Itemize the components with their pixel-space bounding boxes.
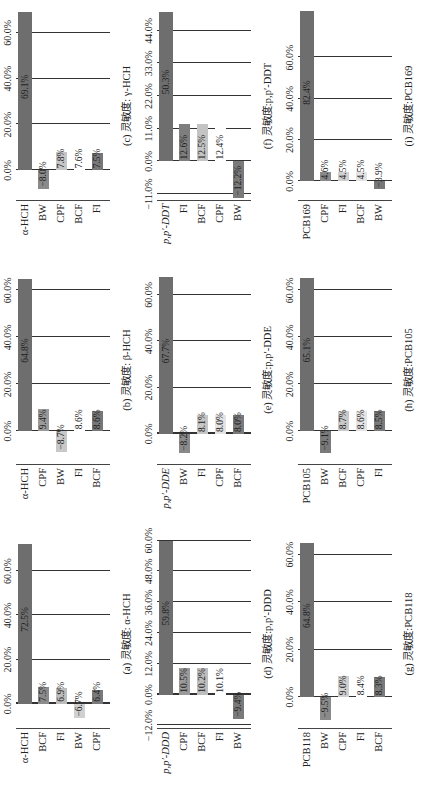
value-label: 72.5%: [20, 607, 31, 632]
tick-label: 20.0%: [143, 375, 154, 401]
tick-label: 60.0%: [284, 45, 295, 71]
value-label: 10.1%: [215, 668, 226, 693]
tick-label: 20.0%: [284, 371, 295, 397]
value-label: −9.5%: [320, 693, 331, 718]
category-label: BW: [55, 468, 66, 524]
category-label: CPF: [355, 468, 366, 524]
category-label: α-HCH: [19, 204, 30, 260]
tick-label: 40.0%: [143, 328, 154, 354]
value-label: 7.6%: [74, 148, 85, 168]
category-label: CPF: [214, 468, 225, 524]
panel-caption: (d) 灵敏度:p,p′-DDD: [259, 539, 274, 729]
value-label: 69.1%: [20, 75, 31, 100]
value-label: −9.1%: [320, 425, 331, 450]
chart-panel-e: 0.0%20.0%40.0%60.0%p,p′-DDE67.7%BW−8.2%F…: [141, 263, 282, 527]
value-label: 8.6%: [74, 409, 85, 429]
value-label: −6.7%: [74, 691, 85, 716]
tick-label: 20.0%: [2, 112, 13, 138]
category-label: PCB105: [301, 468, 312, 524]
value-label: 50.3%: [161, 70, 172, 95]
value-label: 9.0%: [338, 675, 349, 695]
panel-caption: (a) 灵敏度: α-HCH: [118, 539, 133, 729]
value-label: 12.4%: [215, 135, 226, 160]
category-label: CPF: [214, 204, 225, 260]
category-label: BW: [319, 468, 330, 524]
category-label: BCF: [37, 732, 48, 788]
chart-panel-g: 0.0%20.0%40.0%60.0%PCB11864.8%BW−9.5%CPF…: [282, 527, 423, 791]
tick-label: 44.0%: [143, 18, 154, 44]
plot-area: 0.0%20.0%40.0%60.0%α-HCH69.1%BW−8.0%CPF7…: [16, 10, 110, 201]
category-label: BCF: [337, 468, 348, 524]
panel-caption: (e) 灵敏度:p,p′-DDE: [259, 275, 274, 465]
tick-label: 0.0%: [143, 423, 154, 444]
value-label: 82.4%: [302, 80, 313, 105]
tick-label: 11.0%: [143, 116, 154, 141]
value-label: −12.2%: [233, 166, 244, 196]
category-label: BCF: [232, 468, 243, 524]
category-label: α-HCH: [19, 468, 30, 524]
category-label: BW: [178, 468, 189, 524]
tick-label: 60.0%: [143, 282, 154, 308]
category-label: FI: [91, 204, 102, 260]
value-label: 7.5%: [92, 148, 103, 168]
tick-label: 0.0%: [143, 151, 154, 172]
tick-label: 20.0%: [2, 371, 13, 397]
category-label: CPF: [55, 204, 66, 260]
category-label: BW: [319, 732, 330, 788]
value-label: 65.1%: [302, 338, 313, 363]
chart-panel-c: 0.0%20.0%40.0%60.0%α-HCH69.1%BW−8.0%CPF7…: [0, 0, 141, 263]
value-label: 10.2%: [197, 668, 208, 693]
chart-panel-b: 0.0%20.0%40.0%60.0%α-HCH64.8%CPF9.4%BW−8…: [0, 263, 141, 527]
tick-label: 33.0%: [143, 51, 154, 77]
tick-label: 20.0%: [284, 637, 295, 663]
tick-label: 0.0%: [284, 421, 295, 442]
plot-area: 0.0%20.0%40.0%60.0%PCB11864.8%BW−9.5%CPF…: [298, 538, 392, 729]
category-label: PCB118: [301, 732, 312, 788]
tick-label: 60.0%: [143, 528, 154, 554]
value-label: 4.5%: [356, 160, 367, 180]
category-label: FI: [373, 468, 384, 524]
value-label: 9.4%: [38, 409, 49, 429]
tick-label: 12.0%: [143, 651, 154, 677]
category-label: α-HCH: [19, 732, 30, 788]
panel-caption: (b) 灵敏度: β-HCH: [118, 275, 133, 465]
tick-label: 40.0%: [2, 324, 13, 350]
category-label: BCF: [373, 732, 384, 788]
value-label: 8.7%: [338, 409, 349, 429]
value-label: 7.8%: [56, 148, 67, 168]
value-label: 4.6%: [320, 160, 331, 180]
category-label: BCF: [355, 204, 366, 260]
category-label: BW: [37, 204, 48, 260]
plot-area: 0.0%20.0%40.0%60.0%α-HCH72.5%BCF7.5%FI6.…: [16, 538, 110, 729]
category-label: CPF: [319, 204, 330, 260]
tick-label: 36.0%: [143, 589, 154, 615]
tick-label: 40.0%: [2, 66, 13, 92]
category-label: BW: [73, 732, 84, 788]
value-label: 8.6%: [92, 409, 103, 429]
value-label: −9.4%: [233, 692, 244, 717]
chart-panel-a: 0.0%20.0%40.0%60.0%α-HCH72.5%BCF7.5%FI6.…: [0, 527, 141, 791]
chart-panel-h: 0.0%20.0%40.0%60.0%PCB10565.1%BW−9.1%BCF…: [282, 263, 423, 527]
value-label: 7.5%: [38, 682, 49, 702]
value-label: 4.5%: [338, 160, 349, 180]
tick-label: 24.0%: [143, 620, 154, 646]
chart-panel-d: −12.0%0.0%12.0%24.0%36.0%48.0%60.0%p,p′-…: [141, 527, 282, 791]
value-label: 6.4%: [92, 682, 103, 702]
tick-label: 40.0%: [284, 589, 295, 615]
value-label: −8.0%: [38, 161, 49, 186]
sensitivity-figure: 0.0%20.0%40.0%60.0%α-HCH72.5%BCF7.5%FI6.…: [0, 0, 423, 793]
value-label: −8.2%: [179, 426, 190, 451]
value-label: 59.8%: [161, 601, 172, 626]
value-label: 12.5%: [197, 135, 208, 160]
value-label: 8.0%: [233, 412, 244, 432]
panel-caption: (f) 灵敏度:p,p′-DDT: [259, 11, 274, 201]
value-label: 6.9%: [56, 682, 67, 702]
value-label: −8.7%: [56, 424, 67, 449]
plot-area: −12.0%0.0%12.0%24.0%36.0%48.0%60.0%p,p′-…: [157, 538, 251, 729]
category-label: CPF: [337, 732, 348, 788]
tick-label: 0.0%: [284, 687, 295, 708]
chart-panel-f: −11.0%0.0%11.0%22.0%33.0%44.0%p,p′-DDT50…: [141, 0, 282, 263]
category-label: BCF: [73, 204, 84, 260]
tick-label: 20.0%: [284, 127, 295, 153]
category-label: BW: [373, 204, 384, 260]
